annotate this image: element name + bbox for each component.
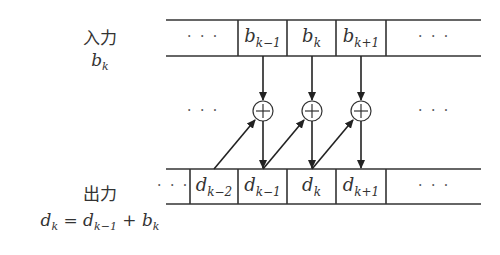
cell-base: d xyxy=(302,174,314,195)
adder-nodes xyxy=(253,101,371,121)
cell-sub: k xyxy=(314,185,321,199)
cell-base: b xyxy=(302,25,314,46)
cell-sub: k+1 xyxy=(354,185,379,199)
cell-base: d xyxy=(244,174,256,195)
input-variable: bk xyxy=(60,50,140,73)
cell-sub: k−2 xyxy=(207,185,232,199)
cell-sub: k xyxy=(314,36,321,50)
middle-ellipsis-left: · · · xyxy=(187,102,219,118)
output-ellipsis-right: · · · xyxy=(418,177,450,193)
cell-base: b xyxy=(343,25,355,46)
cell-base: b xyxy=(244,25,256,46)
input-cell: bk+1 xyxy=(336,25,386,50)
output-cell: dk−2 xyxy=(190,174,238,199)
eq-plus: + xyxy=(117,210,142,230)
cell-base: d xyxy=(343,174,355,195)
arrows xyxy=(214,56,361,169)
eq-lhs: d xyxy=(40,210,51,230)
input-var-sub: k xyxy=(102,60,109,73)
input-cell: bk xyxy=(287,25,336,50)
cell-sub: k−1 xyxy=(256,185,281,199)
cell-sub: k+1 xyxy=(354,36,379,50)
input-ellipsis-left: · · · xyxy=(187,28,219,44)
cell-base: d xyxy=(196,174,208,195)
eq-term2: b xyxy=(142,210,153,230)
input-cell: bk−1 xyxy=(238,25,287,50)
output-cell: dk xyxy=(287,174,336,199)
eq-sign: = xyxy=(58,210,83,230)
output-title: 出力 xyxy=(60,180,140,205)
output-ellipsis-left: · · · xyxy=(157,177,189,193)
input-title: 入力 xyxy=(60,24,140,49)
eq-term1-sub: k−1 xyxy=(94,220,117,233)
cell-sub: k−1 xyxy=(256,36,281,50)
middle-ellipsis-right: · · · xyxy=(418,102,450,118)
eq-term1: d xyxy=(83,210,94,230)
input-var-base: b xyxy=(91,50,102,70)
output-cell: dk−1 xyxy=(238,174,287,199)
eq-term2-sub: k xyxy=(153,220,160,233)
input-ellipsis-right: · · · xyxy=(418,28,450,44)
output-cell: dk+1 xyxy=(336,174,386,199)
output-equation: dk = dk−1 + bk xyxy=(10,210,190,233)
